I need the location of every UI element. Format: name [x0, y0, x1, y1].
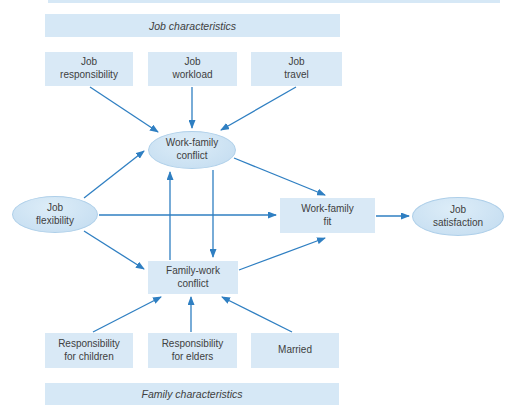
- edge-job-responsibility-to-work-family-conflict: [90, 87, 158, 132]
- top-edge-strip: [48, 0, 500, 3]
- edge-married-to-family-work-conflict: [222, 297, 292, 332]
- node-married: Married: [251, 333, 339, 368]
- edge-family-work-conflict-to-work-family-fit: [239, 238, 325, 270]
- edge-job-flexibility-to-family-work-conflict: [84, 231, 144, 269]
- banner-job-characteristics: Job characteristics: [45, 14, 340, 37]
- node-responsibility-for-children: Responsibility for children: [45, 333, 133, 368]
- edge-work-family-conflict-to-work-family-fit: [234, 158, 325, 195]
- banner-family-characteristics: Family characteristics: [45, 383, 339, 405]
- node-job-responsibility: Job responsibility: [45, 52, 133, 86]
- node-work-family-fit: Work-family fit: [280, 198, 375, 233]
- node-responsibility-for-elders: Responsibility for elders: [148, 333, 237, 368]
- node-job-travel: Job travel: [251, 52, 342, 86]
- edge-job-flexibility-to-work-family-conflict: [84, 151, 144, 198]
- edge-job-travel-to-work-family-conflict: [221, 87, 296, 130]
- node-job-workload: Job workload: [148, 52, 237, 86]
- path-diagram: Job characteristics Job responsibility J…: [0, 0, 515, 419]
- node-job-flexibility: Job flexibility: [12, 196, 98, 233]
- node-work-family-conflict: Work-family conflict: [148, 131, 236, 169]
- node-family-work-conflict: Family-work conflict: [148, 261, 238, 294]
- edge-responsibility-children-to-family-work-conflict: [93, 297, 161, 332]
- node-job-satisfaction: Job satisfaction: [412, 197, 504, 236]
